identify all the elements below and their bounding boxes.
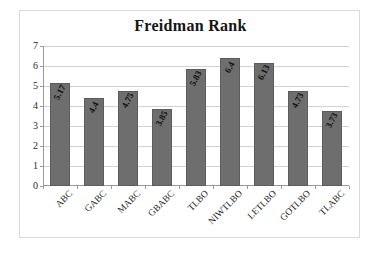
x-axis-category-label: GABC (83, 189, 108, 214)
bar: 4.4 (84, 98, 104, 186)
x-axis-category-label: MABC (116, 189, 143, 216)
x-axis-category-label: NIWTLBO (207, 189, 245, 227)
chart-title: Freidman Rank (20, 17, 361, 35)
y-axis-tick-label: 7 (33, 41, 38, 51)
gridline (43, 46, 349, 47)
bar: 4.73 (288, 91, 308, 186)
bar-value-label: 4.75 (120, 91, 135, 109)
x-axis-tick-mark (349, 186, 350, 189)
y-axis-tick-label: 0 (33, 181, 38, 191)
bar-value-label: 6.13 (256, 64, 271, 82)
y-axis-line (43, 46, 44, 186)
x-axis-category-label: TLBO (186, 189, 210, 213)
plot-area: 01234567 5.174.44.753.855.836.46.134.733… (43, 46, 349, 186)
x-axis-category-label: ABC (54, 189, 75, 210)
bar: 3.85 (152, 109, 172, 186)
bar-value-label: 3.85 (154, 109, 169, 127)
y-axis-tick-label: 4 (33, 101, 38, 111)
y-axis-tick-label: 5 (33, 81, 38, 91)
x-axis-category-label: LETLBO (246, 189, 278, 221)
y-axis-tick-label: 6 (33, 61, 38, 71)
x-axis-category-label: GBABC (147, 189, 177, 219)
bar: 4.75 (118, 91, 138, 186)
bar: 5.17 (50, 83, 70, 186)
bar-value-label: 5.83 (188, 70, 203, 88)
bar: 6.13 (254, 63, 274, 186)
bar-value-label: 4.73 (290, 92, 305, 110)
x-axis-labels: ABCGABCMABCGBABCTLBONIWTLBOLETLBOGOTLBOT… (43, 189, 349, 237)
y-axis-tick-label: 2 (33, 141, 38, 151)
chart-container: Freidman Rank 01234567 5.174.44.753.855.… (19, 10, 360, 238)
bar-value-label: 3.73 (324, 112, 339, 130)
bar: 5.83 (186, 69, 206, 186)
x-axis-category-label: TLABC (318, 189, 347, 218)
bar-value-label: 4.4 (87, 100, 100, 114)
bar-value-label: 6.4 (223, 60, 236, 74)
y-axis-tick-label: 1 (33, 161, 38, 171)
x-axis-category-label: GOTLBO (279, 189, 313, 223)
bar: 6.4 (220, 58, 240, 186)
y-axis-tick-label: 3 (33, 121, 38, 131)
gridline (43, 66, 349, 67)
bar-value-label: 5.17 (52, 83, 67, 101)
bar: 3.73 (322, 111, 342, 186)
